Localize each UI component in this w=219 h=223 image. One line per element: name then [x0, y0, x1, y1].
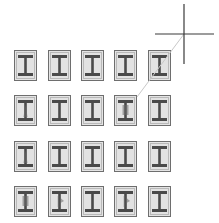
i-beam-icon	[15, 96, 36, 125]
tile-r2-c4[interactable]: web-block	[114, 95, 137, 126]
tile-r3-c1[interactable]: web-taper	[14, 141, 37, 172]
tile-r3-c4[interactable]: plain	[114, 141, 137, 172]
i-beam-icon	[149, 142, 170, 171]
i-beam-icon	[115, 142, 136, 171]
i-beam-icon	[49, 51, 70, 80]
i-beam-icon	[115, 96, 136, 125]
tile-r2-c3[interactable]: plain	[81, 95, 104, 126]
tile-r2-c1[interactable]: web-taper	[14, 95, 37, 126]
tile-r3-c2[interactable]: plain	[48, 141, 71, 172]
canvas: plainplainplainplainplainweb-taperplainp…	[0, 0, 219, 223]
i-beam-icon	[149, 96, 170, 125]
i-beam-icon	[82, 96, 103, 125]
tile-r1-c5[interactable]: plain	[148, 50, 171, 81]
tile-r4-c5[interactable]: plain	[148, 186, 171, 217]
tile-r2-c5[interactable]: plain	[148, 95, 171, 126]
tile-r4-c2[interactable]: web-flag	[48, 186, 71, 217]
i-beam-icon	[149, 187, 170, 216]
tile-r4-c1[interactable]: web-block	[14, 186, 37, 217]
i-beam-icon	[115, 187, 136, 216]
tile-r2-c2[interactable]: plain	[48, 95, 71, 126]
i-beam-icon	[15, 187, 36, 216]
i-beam-icon	[115, 51, 136, 80]
i-beam-icon	[49, 142, 70, 171]
i-beam-icon	[15, 51, 36, 80]
tile-r1-c4[interactable]: plain	[114, 50, 137, 81]
tile-r3-c5[interactable]: plain	[148, 141, 171, 172]
i-beam-icon	[82, 187, 103, 216]
tile-r4-c4[interactable]: web-flag	[114, 186, 137, 217]
i-beam-icon	[49, 96, 70, 125]
tile-r4-c3[interactable]: plain	[81, 186, 104, 217]
i-beam-icon	[49, 187, 70, 216]
tile-r1-c2[interactable]: plain	[48, 50, 71, 81]
i-beam-icon	[82, 51, 103, 80]
tile-r1-c1[interactable]: plain	[14, 50, 37, 81]
i-beam-icon	[82, 142, 103, 171]
i-beam-icon	[15, 142, 36, 171]
i-beam-icon	[149, 51, 170, 80]
tile-r1-c3[interactable]: plain	[81, 50, 104, 81]
tile-r3-c3[interactable]: plain	[81, 141, 104, 172]
